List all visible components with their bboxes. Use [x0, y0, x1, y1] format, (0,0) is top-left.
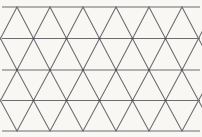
lattice-vertex-dot: [99, 38, 101, 40]
lattice-vertex-dot: [115, 69, 117, 71]
lattice-vertex-dot: [33, 38, 35, 40]
lattice-vertex-dot: [165, 100, 167, 102]
lattice-vertex-dot: [148, 69, 150, 71]
lattice-canvas: [0, 0, 202, 137]
lattice-vertex-dot: [82, 69, 84, 71]
lattice-vertex-dot: [66, 38, 68, 40]
triangular-lattice-figure: [0, 0, 202, 137]
lattice-vertex-dot: [99, 100, 101, 102]
lattice-vertex-dot: [132, 100, 134, 102]
lattice-vertex-dot: [66, 100, 68, 102]
lattice-vertex-dot: [33, 100, 35, 102]
figure-background: [0, 0, 202, 137]
lattice-vertex-dot: [181, 69, 183, 71]
lattice-vertex-dot: [49, 69, 51, 71]
lattice-vertex-dot: [132, 38, 134, 40]
lattice-vertex-dot: [16, 69, 18, 71]
lattice-vertex-dot: [165, 38, 167, 40]
